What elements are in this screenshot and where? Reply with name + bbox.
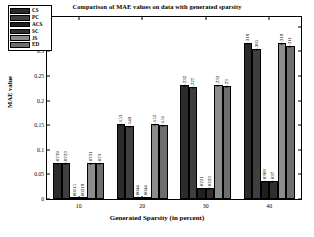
bar-ed-30[interactable]: [223, 86, 231, 199]
bar-value-label: 0.00115: [72, 184, 77, 200]
bar-js-10[interactable]: [87, 163, 95, 199]
x-axis-label: Generated Sparsity (in percent): [0, 214, 314, 222]
bar-value-label: 0.0368: [262, 169, 267, 183]
legend-swatch-icon: [10, 8, 30, 14]
legend-item-label: ED: [32, 42, 39, 47]
bar-cs-30[interactable]: [180, 85, 188, 199]
y-tick-mark: [47, 76, 50, 77]
x-tick-label: 40: [266, 203, 272, 209]
plot-area: 00.050.10.150.20.250.30.35 10203040 0.07…: [46, 16, 302, 200]
x-tick-label: 10: [76, 203, 82, 209]
legend-item-label: PC: [32, 15, 39, 20]
x-tick-label: 20: [139, 203, 145, 209]
bar-value-label: 0.152: [152, 115, 157, 126]
bar-value-label: 0.037: [270, 172, 275, 183]
legend-swatch-icon: [10, 15, 30, 21]
legend-item-label: SC: [32, 29, 39, 34]
y-tick-mark-right: [298, 199, 301, 200]
bar-ed-40[interactable]: [286, 46, 294, 199]
y-tick-label: 0: [41, 196, 44, 202]
bar-pc-30[interactable]: [189, 87, 197, 199]
y-tick-mark: [47, 149, 50, 150]
bar-sc-40[interactable]: [269, 181, 277, 199]
bar-value-label: 0.0223: [207, 176, 212, 190]
legend-item-acs[interactable]: ACS: [10, 21, 50, 27]
bar-js-30[interactable]: [214, 85, 222, 199]
bar-value-label: 0.318: [245, 33, 250, 44]
legend: CSPCACSSCJSED: [8, 5, 52, 51]
y-tick-mark-right: [298, 51, 301, 52]
bar-value-label: 0.0044: [135, 185, 140, 199]
y-axis-label: MAE value: [6, 76, 13, 108]
legend-swatch-icon: [10, 42, 30, 48]
bar-value-label: 0.149: [127, 116, 132, 127]
y-tick-mark-right: [298, 76, 301, 77]
y-tick-mark: [47, 174, 50, 175]
bar-value-label: 0.0221: [199, 176, 204, 190]
y-tick-label: 0.25: [34, 73, 44, 79]
bar-cs-20[interactable]: [117, 124, 125, 199]
bar-pc-20[interactable]: [125, 126, 133, 199]
bar-value-label: 0.232: [215, 76, 220, 87]
y-tick-label: 0.15: [34, 122, 44, 128]
y-tick-label: 0.2: [37, 98, 44, 104]
bar-value-label: 0.227: [190, 78, 195, 89]
legend-item-label: JS: [32, 36, 37, 41]
legend-item-sc[interactable]: SC: [10, 28, 50, 34]
x-tick-mark-top: [78, 17, 79, 20]
legend-item-ed[interactable]: ED: [10, 42, 50, 48]
bar-value-label: 0.00218: [80, 184, 85, 200]
bar-pc-40[interactable]: [252, 49, 260, 199]
figure-canvas: Comparison of MAE values on data with ge…: [0, 0, 314, 237]
y-tick-mark: [47, 199, 50, 200]
bar-ed-10[interactable]: [96, 163, 104, 199]
y-tick-mark-right: [298, 149, 301, 150]
legend-item-cs[interactable]: CS: [10, 8, 50, 14]
bar-value-label: 0.23: [224, 79, 229, 88]
y-tick-mark-right: [298, 26, 301, 27]
bar-value-label: 0.153: [118, 114, 123, 125]
y-tick-mark-right: [298, 100, 301, 101]
bar-value-label: 0.318: [279, 33, 284, 44]
x-tick-mark-top: [142, 17, 143, 20]
legend-swatch-icon: [10, 35, 30, 41]
bar-value-label: 0.073: [97, 154, 102, 165]
x-tick-mark-top: [205, 17, 206, 20]
legend-item-pc[interactable]: PC: [10, 15, 50, 21]
y-tick-mark: [47, 125, 50, 126]
legend-swatch-icon: [10, 29, 30, 35]
legend-swatch-icon: [10, 22, 30, 28]
x-tick-label: 30: [203, 203, 209, 209]
y-tick-label: 0.05: [34, 171, 44, 177]
bar-pc-10[interactable]: [62, 163, 70, 199]
bar-value-label: 0.0731: [88, 151, 93, 165]
y-tick-mark-right: [298, 125, 301, 126]
y-tick-label: 0.1: [37, 147, 44, 153]
bar-cs-10[interactable]: [53, 163, 61, 199]
bar-value-label: 0.305: [254, 40, 259, 51]
x-tick-mark-top: [269, 17, 270, 20]
bar-value-label: 0.232: [182, 76, 187, 87]
bar-cs-40[interactable]: [244, 43, 252, 199]
legend-item-label: ACS: [32, 22, 42, 27]
bar-js-40[interactable]: [278, 43, 286, 199]
legend-item-js[interactable]: JS: [10, 35, 50, 41]
bar-acs-40[interactable]: [261, 181, 269, 199]
bar-value-label: 0.0723: [63, 152, 68, 166]
y-tick-mark-right: [298, 174, 301, 175]
bar-value-label: 0.151: [160, 115, 165, 126]
bar-ed-20[interactable]: [159, 125, 167, 199]
bar-value-label: 0.0044: [143, 185, 148, 199]
legend-item-label: CS: [32, 8, 39, 13]
bar-value-label: 0.0739: [55, 151, 60, 165]
y-tick-mark: [47, 100, 50, 101]
bar-value-label: 0.311: [287, 37, 292, 48]
bar-js-20[interactable]: [151, 124, 159, 199]
